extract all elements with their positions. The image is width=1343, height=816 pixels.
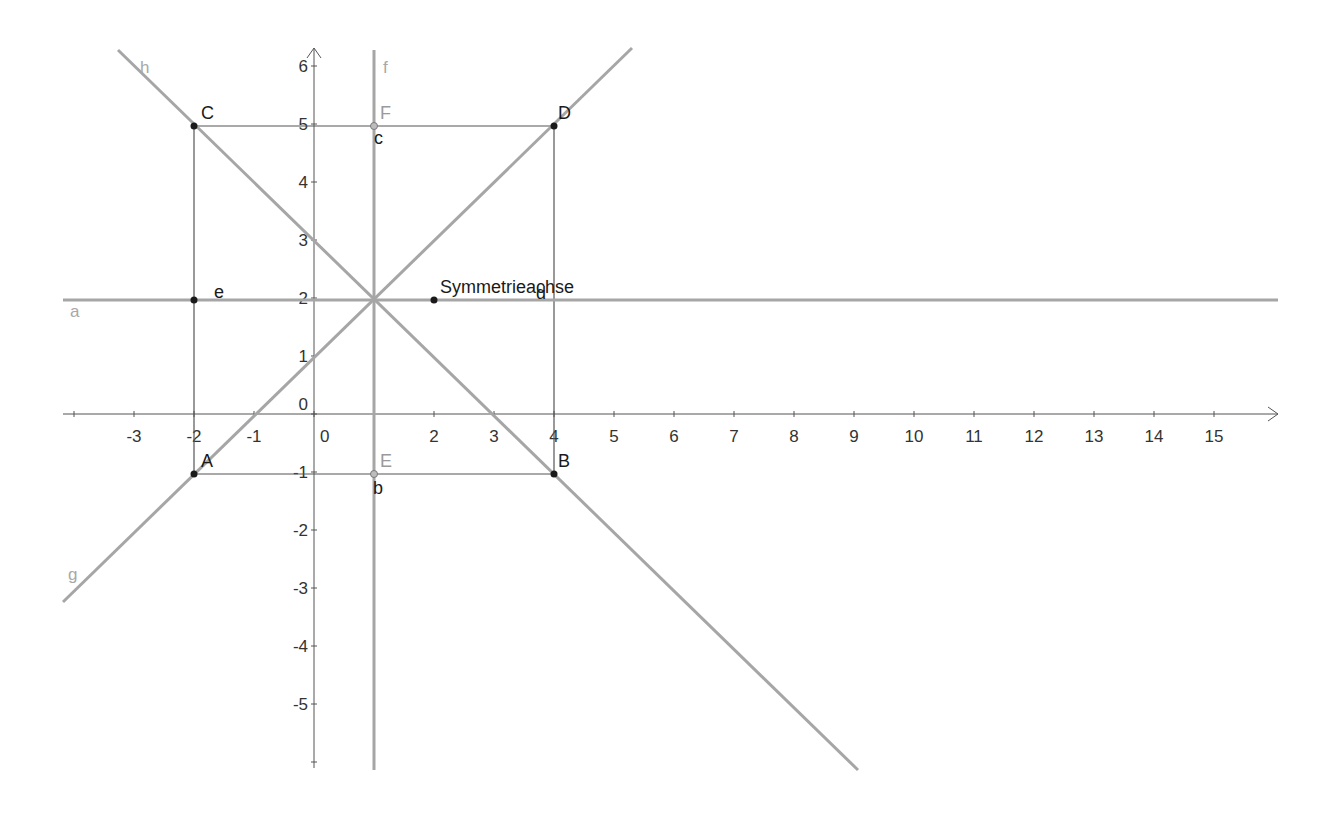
x-tick-label: 5 xyxy=(609,427,618,446)
line-g[interactable] xyxy=(63,48,632,602)
x-tick-label: 12 xyxy=(1025,427,1044,446)
point-A[interactable] xyxy=(191,471,198,478)
x-tick-label: -1 xyxy=(246,427,261,446)
y-tick-label: 6 xyxy=(299,57,308,76)
segment-b-label: b xyxy=(373,478,383,498)
y-tick-label: -5 xyxy=(293,695,308,714)
geometry-canvas[interactable]: -3-2-1023456789101112131415 6543210-1-2-… xyxy=(0,0,1343,816)
y-tick-label: -2 xyxy=(293,521,308,540)
y-tick-label: -3 xyxy=(293,579,308,598)
point-E-label: E xyxy=(380,451,392,471)
x-tick-label: 3 xyxy=(489,427,498,446)
point-on-e[interactable] xyxy=(191,297,198,304)
point-F[interactable] xyxy=(371,123,378,130)
x-tick-label: 7 xyxy=(729,427,738,446)
y-tick-label: 5 xyxy=(299,115,308,134)
thick-lines xyxy=(63,48,1278,770)
line-f-label: f xyxy=(383,58,388,77)
line-a-label: a xyxy=(70,302,80,321)
point-C[interactable] xyxy=(191,123,198,130)
line-g-label: g xyxy=(68,565,77,584)
segment-e-label: e xyxy=(214,282,224,302)
x-tick-label: 0 xyxy=(320,427,329,446)
point-D[interactable] xyxy=(551,123,558,130)
x-tick-label: 8 xyxy=(789,427,798,446)
x-tick-label: 9 xyxy=(849,427,858,446)
symmetry-axis-text[interactable]: Symmetrieachse xyxy=(440,277,574,297)
y-axis xyxy=(307,48,321,768)
x-tick-label: 2 xyxy=(429,427,438,446)
y-tick-label: 4 xyxy=(299,173,308,192)
x-tick-label: 13 xyxy=(1085,427,1104,446)
x-tick-label: 15 xyxy=(1205,427,1224,446)
x-tick-label: 11 xyxy=(965,427,983,446)
y-tick-label: -4 xyxy=(293,637,308,656)
point-C-label: C xyxy=(201,103,214,123)
x-tick-label: 14 xyxy=(1145,427,1164,446)
point-symmetrieachse[interactable] xyxy=(431,297,438,304)
x-axis xyxy=(63,407,1278,421)
point-E[interactable] xyxy=(371,471,378,478)
point-A-label: A xyxy=(201,451,213,471)
x-tick-label: 6 xyxy=(669,427,678,446)
point-D-label: D xyxy=(558,103,571,123)
x-tick-label: -3 xyxy=(126,427,141,446)
x-axis-ticks: -3-2-1023456789101112131415 xyxy=(74,411,1223,446)
x-tick-label: 10 xyxy=(905,427,924,446)
line-h[interactable] xyxy=(118,50,858,770)
point-B[interactable] xyxy=(551,471,558,478)
point-F-label: F xyxy=(380,103,391,123)
segment-c-label: c xyxy=(374,128,383,148)
y-axis-ticks: 6543210-1-2-3-4-5 xyxy=(293,57,317,762)
point-B-label: B xyxy=(558,451,570,471)
y-tick-label: 0 xyxy=(299,395,308,414)
y-tick-label: -1 xyxy=(293,463,308,482)
line-h-label: h xyxy=(140,58,149,77)
